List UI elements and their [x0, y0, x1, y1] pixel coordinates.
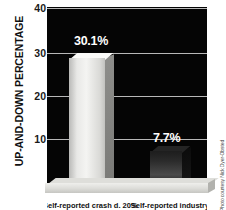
bar-0-side-face — [105, 54, 114, 187]
bar-1-value-label: 7.7% — [153, 132, 180, 145]
y-tick-label-10: 10 — [22, 134, 46, 144]
bar-0[interactable] — [69, 58, 105, 187]
y-tick-label-30: 30 — [22, 48, 46, 58]
chart-floor-front — [45, 183, 208, 193]
chart-figure: UP-AND-DOWN PERCENTAGE 40 30 20 10 30.1%… — [0, 0, 226, 210]
gridline-30 — [47, 53, 207, 54]
plot-area: 30.1% 7.7% — [47, 7, 207, 187]
y-axis-tick-labels: 40 30 20 10 — [18, 0, 46, 190]
category-label-0: Self-reported crash d. 20% — [47, 201, 129, 210]
photo-credit-text: Photo courtesy Nick Dyer-Obsted — [218, 93, 226, 210]
y-tick-label-40: 40 — [22, 3, 46, 13]
chart-floor-side — [208, 179, 215, 193]
bar-0-front-face — [69, 58, 105, 187]
chart-floor-platform — [45, 178, 215, 196]
y-tick-label-20: 20 — [22, 91, 46, 101]
category-label-1: Self-reported industry — [127, 201, 207, 210]
gridline-40 — [47, 8, 207, 9]
x-axis-category-labels: Self-reported crash d. 20% Self-reported… — [47, 201, 207, 210]
bar-0-value-label: 30.1% — [74, 35, 108, 48]
